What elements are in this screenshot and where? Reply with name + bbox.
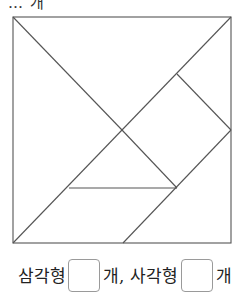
quadrilateral-count-box[interactable] (181, 259, 213, 292)
answer-row: 삼각형 개, 사각형 개 (0, 259, 244, 294)
unit-and-quad-label: 개, 사각형 (103, 265, 178, 287)
tangram-diagram (0, 0, 244, 256)
diagonal-top-left (13, 17, 122, 130)
line-right-to-bottom (123, 130, 231, 243)
triangle-count-box[interactable] (68, 259, 100, 292)
line-center-to-lower-right (122, 130, 177, 188)
unit-label: 개 (216, 265, 232, 287)
line-upper-right-square-edge (177, 74, 231, 130)
triangle-label: 삼각형 (18, 265, 66, 287)
line-center-to-bottom-left (13, 130, 122, 243)
